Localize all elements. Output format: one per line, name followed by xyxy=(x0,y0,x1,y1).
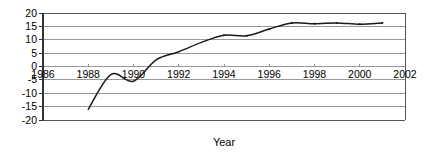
x-tick-label-1994: 1994 xyxy=(212,68,236,80)
x-tick-label-1996: 1996 xyxy=(258,68,282,80)
data-point-marker xyxy=(314,23,316,25)
line-chart: 198619881990199219941996199820002002 201… xyxy=(0,0,431,155)
data-point-marker xyxy=(381,22,383,24)
x-tick-labels-group: 198619881990199219941996199820002002 xyxy=(31,68,417,80)
x-tick-label-1992: 1992 xyxy=(167,68,191,80)
data-point-marker xyxy=(291,22,293,24)
x-tick-label-1988: 1988 xyxy=(77,68,101,80)
data-point-marker xyxy=(223,34,225,36)
x-tick-label-2002: 2002 xyxy=(393,68,417,80)
data-point-marker xyxy=(268,28,270,30)
x-tick-label-1998: 1998 xyxy=(303,68,327,80)
y-tick-label-0: 0 xyxy=(31,60,37,72)
y-tick-label-5: 5 xyxy=(31,47,37,59)
y-tick-label--10: -10 xyxy=(22,87,37,99)
y-tick-label--5: -5 xyxy=(28,73,37,85)
chart-container: 198619881990199219941996199820002002 201… xyxy=(0,0,431,155)
y-tick-label--15: -15 xyxy=(22,100,37,112)
y-tick-label-10: 10 xyxy=(25,33,37,45)
y-tick-label--20: -20 xyxy=(22,114,37,126)
y-tick-labels-group: 20151050-5-10-15-20 xyxy=(22,7,37,126)
y-tick-label-15: 15 xyxy=(25,20,37,32)
x-tick-label-2000: 2000 xyxy=(348,68,372,80)
y-tickmarks-group xyxy=(39,13,43,120)
y-tick-label-20: 20 xyxy=(25,7,37,19)
data-point-marker xyxy=(246,35,248,37)
data-point-marker xyxy=(336,22,338,24)
x-tick-label-1990: 1990 xyxy=(122,68,146,80)
x-axis-title: Year xyxy=(213,136,236,148)
data-point-marker xyxy=(359,23,361,25)
